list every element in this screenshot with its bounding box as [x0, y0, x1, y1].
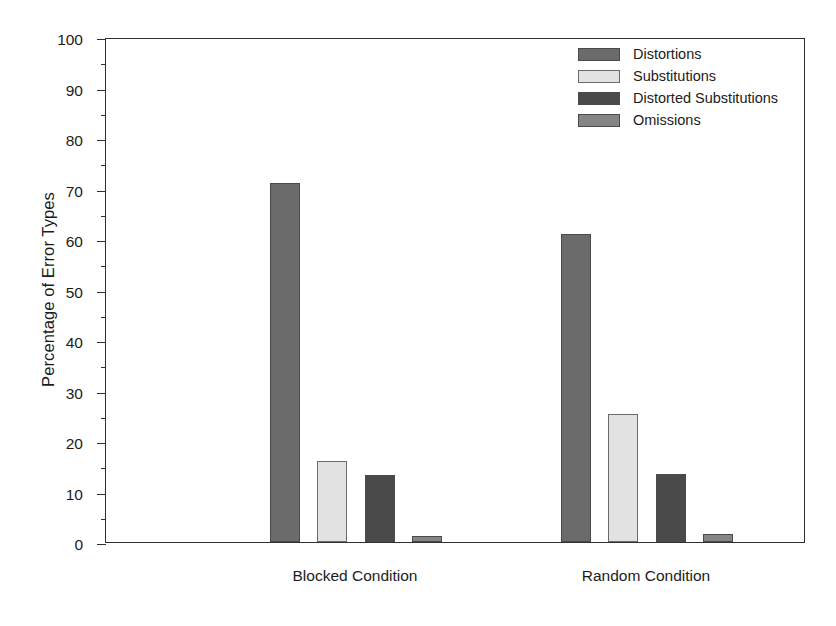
y-tick-major: 70	[97, 191, 106, 192]
bar	[270, 183, 300, 542]
x-axis-group-label: Blocked Condition	[293, 567, 418, 585]
y-tick-label: 30	[66, 385, 83, 403]
y-tick-label: 40	[66, 334, 83, 352]
bar	[412, 536, 442, 542]
legend-swatch	[578, 114, 620, 127]
legend-label: Distortions	[633, 46, 702, 62]
y-tick-minor	[101, 115, 106, 116]
y-tick-label: 10	[66, 486, 83, 504]
y-tick-minor	[101, 468, 106, 469]
bar-chart-figure: Percentage of Error Types 01020304050607…	[0, 0, 836, 626]
legend-swatch	[578, 70, 620, 83]
legend-item: Distortions	[578, 43, 808, 65]
y-tick-label: 70	[66, 183, 83, 201]
y-axis-title: Percentage of Error Types	[39, 140, 58, 440]
y-tick-label: 90	[66, 82, 83, 100]
bar	[561, 234, 591, 542]
y-tick-major: 10	[97, 494, 106, 495]
legend-swatch	[578, 92, 620, 105]
bar	[656, 474, 686, 542]
y-tick-label: 80	[66, 132, 83, 150]
legend-swatch	[578, 48, 620, 61]
y-tick-major: 60	[97, 241, 106, 242]
chart-legend: DistortionsSubstitutionsDistorted Substi…	[578, 43, 808, 131]
y-tick-major: 100	[97, 39, 106, 40]
y-tick-minor	[101, 216, 106, 217]
y-tick-minor	[101, 519, 106, 520]
y-tick-major: 40	[97, 342, 106, 343]
legend-item: Distorted Substitutions	[578, 87, 808, 109]
y-tick-major: 30	[97, 393, 106, 394]
y-tick-minor	[101, 64, 106, 65]
bar	[317, 461, 347, 542]
y-tick-label: 20	[66, 435, 83, 453]
y-tick-major: 20	[97, 443, 106, 444]
y-tick-label: 50	[66, 284, 83, 302]
x-axis-group-label: Random Condition	[582, 567, 710, 585]
y-tick-minor	[101, 418, 106, 419]
y-tick-major: 0	[97, 544, 106, 545]
y-tick-minor	[101, 367, 106, 368]
legend-item: Omissions	[578, 109, 808, 131]
legend-label: Omissions	[633, 112, 701, 128]
y-tick-label: 60	[66, 233, 83, 251]
y-tick-label: 0	[74, 536, 83, 554]
y-tick-major: 80	[97, 140, 106, 141]
y-tick-major: 50	[97, 292, 106, 293]
legend-label: Substitutions	[633, 68, 716, 84]
y-tick-minor	[101, 317, 106, 318]
y-tick-label: 100	[57, 31, 83, 49]
legend-label: Distorted Substitutions	[633, 90, 778, 106]
legend-item: Substitutions	[578, 65, 808, 87]
bar	[608, 414, 638, 542]
bar	[365, 475, 395, 542]
y-tick-minor	[101, 266, 106, 267]
y-tick-major: 90	[97, 90, 106, 91]
bar	[703, 534, 733, 542]
y-tick-minor	[101, 165, 106, 166]
